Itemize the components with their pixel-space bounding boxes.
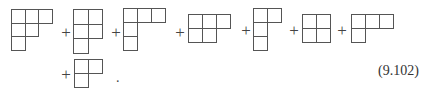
diagram-box bbox=[88, 59, 103, 74]
plus-operator: + bbox=[289, 22, 299, 39]
equation-number: (9.102) bbox=[378, 63, 419, 79]
diagram-box bbox=[123, 36, 138, 51]
diagram-box bbox=[253, 36, 268, 51]
diagram-box bbox=[88, 9, 104, 25]
diagram-box bbox=[73, 9, 89, 25]
diagram-box bbox=[302, 14, 317, 29]
equation-terminator: . bbox=[116, 70, 120, 86]
diagram-box bbox=[38, 9, 53, 24]
diagram-box bbox=[74, 59, 89, 74]
plus-operator: + bbox=[175, 24, 185, 41]
diagram-box bbox=[216, 14, 231, 29]
diagram-box bbox=[123, 22, 138, 37]
diagram-box bbox=[73, 24, 89, 40]
diagram-box bbox=[137, 8, 152, 23]
plus-operator: + bbox=[61, 66, 71, 83]
plus-operator: + bbox=[61, 24, 71, 41]
diagram-box bbox=[188, 14, 203, 29]
diagram-box bbox=[351, 28, 366, 43]
diagram-box bbox=[379, 14, 394, 29]
diagram-box bbox=[123, 8, 138, 23]
plus-operator: + bbox=[337, 22, 347, 39]
diagram-box bbox=[316, 28, 331, 43]
diagram-box bbox=[25, 23, 40, 38]
plus-operator: + bbox=[241, 22, 251, 39]
diagram-box bbox=[73, 38, 89, 54]
diagram-box bbox=[88, 24, 104, 40]
diagram-box bbox=[25, 9, 40, 24]
diagram-box bbox=[74, 73, 89, 88]
diagram-box bbox=[202, 28, 217, 43]
diagram-box bbox=[365, 14, 380, 29]
diagram-box bbox=[188, 28, 203, 43]
diagram-box bbox=[302, 28, 317, 43]
diagram-box bbox=[151, 8, 166, 23]
plus-operator: + bbox=[111, 24, 121, 41]
diagram-box bbox=[316, 14, 331, 29]
diagram-box bbox=[253, 8, 268, 23]
diagram-box bbox=[202, 14, 217, 29]
diagram-box bbox=[253, 22, 268, 37]
diagram-box bbox=[351, 14, 366, 29]
diagram-box bbox=[11, 23, 26, 38]
diagram-box bbox=[267, 8, 282, 23]
diagram-box bbox=[11, 36, 26, 51]
diagram-box bbox=[11, 9, 26, 24]
